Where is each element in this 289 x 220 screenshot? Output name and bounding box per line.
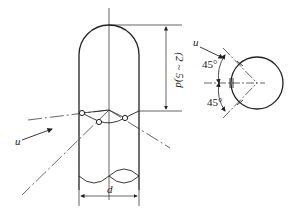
- flow-label-left: u: [15, 135, 21, 147]
- angle-arc-top: [218, 55, 225, 83]
- tap-hole-3: [122, 115, 127, 120]
- angle-label-bottom: 45°: [207, 96, 222, 108]
- flow-arrow-right: [200, 47, 223, 58]
- width-dim-label: d: [107, 183, 113, 195]
- flow-arrow-left: [22, 129, 52, 140]
- height-dim-label: (2 ~ 5)d: [173, 52, 186, 88]
- flow-label-right: u: [193, 36, 199, 48]
- angle-label-top: 45°: [202, 58, 217, 70]
- tap-hole-1: [79, 110, 84, 115]
- technical-diagram: (2 ~ 5)d d u u 45° 45°: [0, 0, 289, 220]
- tap-hole-2: [96, 119, 101, 124]
- tap-curve: [82, 111, 139, 123]
